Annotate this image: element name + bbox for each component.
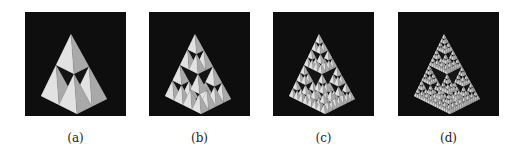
- tetra-face-right: [319, 34, 324, 44]
- caption-c: (c): [273, 131, 374, 145]
- tetra-face-right: [469, 79, 471, 84]
- tetra-face-right: [478, 95, 480, 100]
- sierpinski-render-d: [398, 12, 499, 116]
- tetra-face-right: [71, 34, 89, 74]
- tetra-face-right: [449, 42, 451, 47]
- tetra-face-right: [204, 50, 213, 70]
- tetra-face-right: [195, 34, 204, 54]
- tetra-face-right: [455, 54, 457, 59]
- fractal-panel-c: [273, 12, 374, 116]
- tetra-face-right: [458, 58, 460, 63]
- tetra-face-right: [222, 83, 231, 103]
- tetra-face-right: [473, 87, 475, 92]
- fractal-panel-b: [149, 12, 250, 116]
- tetra-face-right: [467, 75, 469, 80]
- tetra-face-right: [351, 91, 356, 101]
- fractal-panel-a: [25, 12, 126, 116]
- tetra-face-right: [462, 67, 464, 72]
- tetra-face-right: [476, 91, 478, 96]
- tetra-face-right: [444, 34, 446, 39]
- tetra-face-right: [451, 46, 453, 51]
- sierpinski-render-c: [273, 12, 374, 116]
- tetra-face-right: [328, 50, 333, 60]
- tetra-face-right: [342, 75, 347, 85]
- caption-b: (b): [149, 131, 250, 145]
- caption-a: (a): [25, 131, 126, 145]
- sierpinski-render-a: [25, 12, 126, 116]
- caption-d: (d): [398, 131, 499, 145]
- tetra-face-right: [346, 83, 351, 93]
- sierpinski-render-b: [149, 12, 250, 116]
- tetra-face-right: [324, 42, 329, 52]
- fractal-panel-d: [398, 12, 499, 116]
- tetra-face-right: [213, 67, 222, 87]
- tetra-face-right: [337, 67, 342, 77]
- tetra-face-right: [89, 67, 107, 107]
- tetra-face-right: [333, 58, 338, 68]
- tetra-face-right: [464, 71, 466, 76]
- tetra-face-right: [446, 38, 448, 43]
- tetra-face-right: [460, 62, 462, 67]
- tetra-face-right: [453, 50, 455, 55]
- tetra-face-right: [471, 83, 473, 88]
